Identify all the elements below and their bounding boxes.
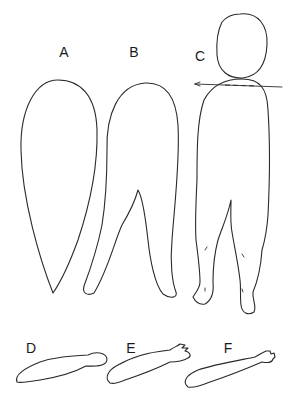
label-d: D [26,340,36,356]
piece-c-ankle-mark-right [242,289,243,292]
label-f: F [224,340,233,356]
piece-d-outline [17,353,107,382]
label-b: B [129,44,138,60]
piece-e-outline [107,344,190,383]
piece-c-cut-line [195,84,282,87]
pattern-diagram: A B C D E F [0,0,299,404]
piece-a-outline [21,80,97,293]
piece-c-head [217,14,267,78]
piece-b-outline [84,83,179,297]
label-a: A [59,44,69,60]
piece-c-knee-mark-right [242,254,244,257]
piece-f-outline [185,351,275,387]
piece-c-knee-mark-left [205,247,207,250]
piece-c-body [193,79,270,314]
label-c: C [195,48,205,64]
label-e: E [126,340,135,356]
